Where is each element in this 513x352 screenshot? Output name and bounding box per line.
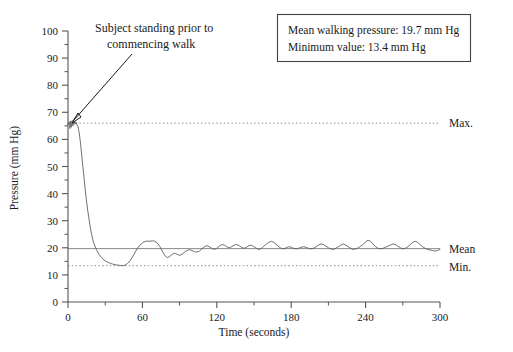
y-tick-label: 80 [47,79,59,91]
y-tick-label: 60 [47,133,59,145]
x-tick-label: 300 [432,311,449,323]
y-axis-ticks [62,31,68,302]
y-tick-label: 0 [53,296,59,308]
annotation-arrowhead [72,113,81,123]
max-label: Max. [449,117,473,129]
y-tick-label: 20 [47,242,59,254]
chart-figure: 0102030405060708090100 060120180240300 P… [0,0,513,352]
y-tick-label: 40 [47,188,59,200]
reference-lines-group [68,123,440,266]
mean-label: Mean [449,243,475,255]
statistics-box: Mean walking pressure: 19.7 mm Hg Minimu… [278,15,471,62]
x-tick-label: 120 [209,311,226,323]
x-tick-label: 240 [357,311,374,323]
min-label: Min. [449,261,471,273]
x-tick-label: 180 [283,311,300,323]
y-tick-label: 50 [47,161,59,173]
annotation-leader-line [74,54,132,120]
x-axis-title: Time (seconds) [219,326,290,339]
y-axis-title: Pressure (mm Hg) [8,126,21,210]
statistics-box-border [278,15,471,62]
axes-group [68,31,440,302]
y-tick-label: 100 [42,25,59,37]
annotation-line-2: commencing walk [107,37,195,51]
y-axis-tick-labels: 0102030405060708090100 [42,25,59,308]
annotation-line-1: Subject standing prior to [95,21,213,35]
x-axis-ticks [68,302,440,308]
pressure-trace [68,120,440,265]
x-axis-tick-labels: 060120180240300 [65,311,449,323]
y-tick-label: 10 [47,269,59,281]
stat-line-2: Minimum value: 13.4 mm Hg [288,41,426,54]
y-tick-label: 70 [47,106,59,118]
y-tick-label: 30 [47,215,59,227]
stat-line-1: Mean walking pressure: 19.7 mm Hg [288,24,459,37]
standing-annotation: Subject standing prior to commencing wal… [72,21,213,123]
y-tick-label: 90 [47,52,59,64]
x-tick-label: 0 [65,311,71,323]
x-tick-label: 60 [137,311,149,323]
chart-canvas: 0102030405060708090100 060120180240300 P… [0,0,513,352]
